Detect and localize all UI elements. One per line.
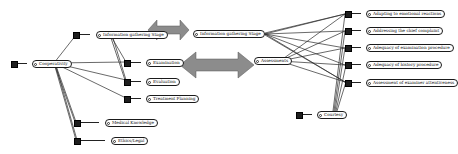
node-square-icon bbox=[11, 61, 18, 68]
node-square-icon bbox=[345, 80, 352, 87]
node-courtesy[interactable]: Courtesy bbox=[296, 111, 347, 119]
node-medical-knowledge[interactable]: Medical Knowledge bbox=[74, 119, 158, 127]
node-label: Information gathering Stage bbox=[193, 30, 265, 38]
node-treatment-planning[interactable]: Treatment Planning bbox=[124, 95, 199, 103]
node-label: Assessments bbox=[254, 57, 292, 65]
node-square-icon bbox=[345, 45, 352, 52]
node-label: Adequacy of examination procedure bbox=[366, 44, 454, 52]
node-square-icon bbox=[73, 32, 80, 39]
node-adapting-emotional[interactable]: Adapting to emotional reactions bbox=[345, 10, 445, 18]
node-ethics-legal[interactable]: Ethics/Legal bbox=[74, 137, 148, 145]
node-assessments[interactable]: Assessments bbox=[254, 57, 292, 65]
node-label: Ethics/Legal bbox=[111, 137, 148, 145]
node-square-icon bbox=[124, 79, 131, 86]
node-label: Evaluation bbox=[146, 78, 180, 86]
node-examination[interactable]: Examination bbox=[124, 59, 184, 67]
node-label: Assessment of examiner attentiveness bbox=[366, 79, 458, 87]
node-root[interactable]: Cooperativity bbox=[11, 60, 72, 68]
node-history-procedure[interactable]: Adequacy of history procedure bbox=[345, 61, 442, 69]
node-square-icon bbox=[345, 11, 352, 18]
node-label: Adequacy of history procedure bbox=[366, 61, 442, 69]
node-square-icon bbox=[345, 28, 352, 35]
node-label: Medical Knowledge bbox=[105, 119, 158, 127]
node-square-icon bbox=[124, 60, 131, 67]
node-examination-procedure[interactable]: Adequacy of examination procedure bbox=[345, 44, 454, 52]
node-evaluation[interactable]: Evaluation bbox=[124, 78, 180, 86]
node-label: Examination bbox=[146, 59, 184, 67]
node-chief-complaint[interactable]: Addressing the chief complaint bbox=[345, 27, 443, 35]
node-center-information-gathering[interactable]: Information gathering Stage bbox=[193, 30, 265, 38]
node-square-icon bbox=[124, 96, 131, 103]
node-square-icon bbox=[74, 120, 81, 127]
node-square-icon bbox=[296, 112, 303, 119]
node-label: Information gathering Stage bbox=[96, 31, 168, 39]
node-label: Courtesy bbox=[317, 111, 347, 119]
node-label: Addressing the chief complaint bbox=[366, 27, 443, 35]
node-information-gathering[interactable]: Information gathering Stage bbox=[73, 31, 168, 39]
node-label: Treatment Planning bbox=[146, 95, 199, 103]
node-label: Adapting to emotional reactions bbox=[366, 10, 445, 18]
node-label: Cooperativity bbox=[32, 60, 72, 68]
node-examiner-attentiveness[interactable]: Assessment of examiner attentiveness bbox=[345, 79, 458, 87]
node-square-icon bbox=[345, 62, 352, 69]
node-square-icon bbox=[74, 138, 81, 145]
